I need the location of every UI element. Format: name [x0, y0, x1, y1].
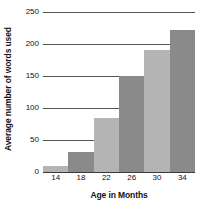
- bar: [43, 166, 68, 172]
- y-tick-label: 250: [26, 8, 39, 16]
- bars-group: [43, 12, 195, 172]
- bar: [144, 50, 169, 172]
- y-tick-label: 50: [30, 136, 39, 144]
- y-tick-label: 100: [26, 104, 39, 112]
- x-tick-label: 30: [153, 174, 162, 182]
- bar-chart-figure: Average number of words used 05010015020…: [0, 0, 198, 211]
- x-tick-label: 22: [102, 174, 111, 182]
- x-tick-label: 34: [178, 174, 187, 182]
- x-axis-tick-labels: 141822263034: [43, 174, 195, 188]
- bar: [68, 152, 93, 172]
- plot-area: [43, 12, 195, 172]
- x-tick-label: 18: [77, 174, 86, 182]
- y-tick-label: 0: [35, 168, 39, 176]
- bar: [119, 76, 144, 172]
- y-axis-tick-labels: 050100150200250: [16, 12, 41, 172]
- y-axis-title: Average number of words used: [0, 0, 16, 178]
- bar: [170, 30, 195, 172]
- x-axis-title: Age in Months: [43, 190, 195, 200]
- y-tick-label: 150: [26, 72, 39, 80]
- y-axis-title-label: Average number of words used: [3, 27, 13, 151]
- bar: [94, 118, 119, 172]
- x-tick-label: 14: [51, 174, 60, 182]
- axis-baseline: [43, 172, 195, 173]
- x-tick-label: 26: [127, 174, 136, 182]
- y-tick-label: 200: [26, 40, 39, 48]
